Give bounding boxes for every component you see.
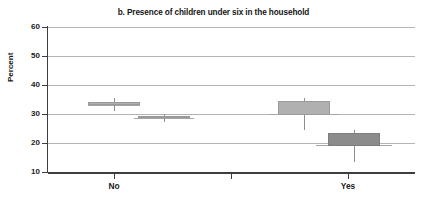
box-rect (278, 101, 330, 115)
x-tick-mark-yes (348, 173, 349, 179)
y-axis-title: Percent (6, 53, 15, 82)
x-tick-label-yes: Yes (318, 181, 378, 191)
box-plot-yes-1 (278, 27, 330, 172)
x-tick-label-no: No (84, 181, 144, 191)
plot-area (48, 27, 415, 172)
box-rect (138, 116, 190, 118)
chart-title: b. Presence of children under six in the… (0, 8, 427, 17)
box-rect (88, 102, 140, 105)
x-tick-mark-no (114, 173, 115, 179)
box-rect (328, 133, 380, 146)
y-tick-label-60: 60 (18, 22, 40, 31)
y-tick-label-40: 40 (18, 80, 40, 89)
y-tick-label-30: 30 (18, 109, 40, 118)
y-tick-label-50: 50 (18, 51, 40, 60)
box-plot-yes-2 (328, 27, 380, 172)
box-plot-no-2 (138, 27, 190, 172)
y-tick-label-20: 20 (18, 138, 40, 147)
x-tick-mark-mid (231, 173, 232, 179)
box-plot-no-1 (88, 27, 140, 172)
chart-container: b. Presence of children under six in the… (0, 0, 427, 206)
y-tick-label-10: 10 (18, 167, 40, 176)
